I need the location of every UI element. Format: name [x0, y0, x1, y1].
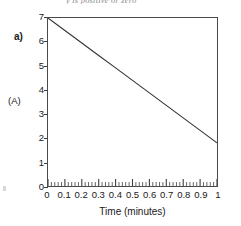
x-tick-label: 0.3: [92, 190, 105, 200]
plot-canvas: [48, 18, 217, 186]
part-label: a): [14, 31, 23, 42]
x-axis-tick-labels: 00.10.20.30.40.50.60.70.80.91: [47, 190, 218, 203]
x-tick-label: 0.2: [75, 190, 88, 200]
x-tick-label: 0.6: [143, 190, 156, 200]
x-tick-label: 1: [215, 190, 220, 200]
x-tick-label: 0: [44, 190, 49, 200]
cut-off-header-text: y is positive or zero: [66, 0, 238, 4]
y-tick-mark: [44, 187, 48, 188]
x-axis-title: Time (minutes): [47, 206, 218, 217]
y-axis-tick-labels: 01234567: [30, 17, 44, 187]
x-tick-label: 0.5: [126, 190, 139, 200]
plot-area: [47, 17, 218, 187]
x-tick-label: 0.7: [160, 190, 173, 200]
y-axis-title: (A): [8, 95, 21, 106]
scan-artifact-speck: [3, 186, 6, 191]
x-tick-label: 0.9: [194, 190, 207, 200]
data-series-line: [48, 18, 217, 143]
x-tick-label: 0.1: [57, 190, 70, 200]
x-tick-label: 0.4: [109, 190, 122, 200]
figure-root: y is positive or zero a) (A) 01234567 00…: [0, 0, 241, 226]
x-tick-label: 0.8: [177, 190, 190, 200]
